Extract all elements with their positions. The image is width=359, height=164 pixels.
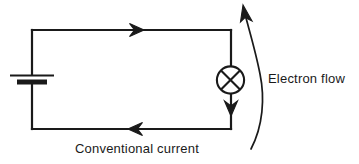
battery-symbol	[10, 76, 54, 85]
electron-flow-label: Electron flow	[268, 71, 345, 86]
battery-negative-plate	[17, 80, 47, 85]
circuit-wires	[32, 30, 231, 129]
circuit-diagram: Electron flow Conventional current	[0, 0, 359, 164]
electron-flow-curve-path	[246, 16, 263, 149]
lamp-symbol	[217, 66, 244, 93]
conventional-current-label: Conventional current	[75, 141, 199, 156]
